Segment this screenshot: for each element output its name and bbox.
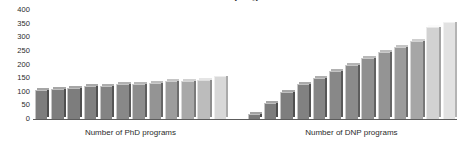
bar-phd: [67, 88, 79, 119]
bar-face: [100, 86, 112, 119]
bar-phd: [132, 84, 144, 119]
plot-area: [33, 11, 457, 120]
bar-side-face: [423, 39, 425, 117]
bar-side-face: [145, 82, 147, 117]
chart-title: Number of programs: [0, 0, 461, 1]
bar-face: [394, 47, 406, 119]
bar-dnp: [264, 103, 276, 119]
bar-dnp: [410, 41, 422, 119]
y-tick-100: 100: [0, 88, 30, 96]
bar-side-face: [47, 88, 49, 117]
bar-dnp: [280, 92, 292, 119]
bar-dnp: [394, 47, 406, 119]
bar-face: [426, 27, 438, 119]
bar-side-face: [358, 63, 360, 118]
bar-side-face: [80, 86, 82, 117]
bar-face: [313, 78, 325, 119]
bar-phd: [197, 80, 209, 119]
y-tick-150: 150: [0, 74, 30, 82]
group-label-phd: Number of PhD programs: [28, 128, 232, 138]
bar-face: [67, 88, 79, 119]
bar-side-face: [210, 78, 212, 117]
bar-side-face: [96, 84, 98, 117]
y-tick-250: 250: [0, 47, 30, 55]
bar-phd: [51, 89, 63, 119]
bar-face: [35, 90, 47, 119]
bar-side-face: [406, 45, 408, 117]
bar-dnp: [297, 84, 309, 119]
bar-face: [149, 83, 161, 119]
bar-side-face: [341, 69, 343, 117]
y-tick-350: 350: [0, 20, 30, 28]
bar-dnp: [313, 78, 325, 119]
bar-face: [378, 52, 390, 119]
bar-side-face: [226, 74, 228, 117]
bar-phd: [149, 83, 161, 119]
bar-side-face: [455, 20, 457, 117]
bar-face: [345, 65, 357, 120]
bar-face: [264, 103, 276, 119]
bar-face: [361, 58, 373, 119]
bar-side-face: [112, 84, 114, 117]
x-axis-baseline: [33, 119, 457, 120]
bar-face: [329, 71, 341, 119]
group-label-dnp: Number of DNP programs: [245, 128, 457, 138]
bar-face: [280, 92, 292, 119]
bar-side-face: [129, 82, 131, 117]
y-axis: 400 350 300 250 200 150 100 50 0: [0, 0, 30, 154]
y-tick-0: 0: [0, 115, 30, 123]
bar-side-face: [276, 101, 278, 117]
bar-side-face: [161, 81, 163, 117]
bar-side-face: [439, 25, 441, 117]
bar-face: [132, 84, 144, 119]
bar-face: [84, 86, 96, 119]
bar-face: [165, 81, 177, 119]
bar-side-face: [374, 56, 376, 117]
bar-phd: [181, 81, 193, 119]
bar-side-face: [64, 87, 66, 117]
bar-face: [410, 41, 422, 119]
bar-chart: Number of programs 400 350 300 250 200 1…: [0, 0, 461, 154]
bar-dnp: [345, 65, 357, 120]
bar-face: [51, 89, 63, 119]
bar-face: [297, 84, 309, 119]
y-tick-50: 50: [0, 101, 30, 109]
bar-phd: [116, 84, 128, 119]
bar-face: [181, 81, 193, 119]
bar-side-face: [293, 90, 295, 117]
y-tick-400: 400: [0, 6, 30, 14]
bar-dnp: [426, 27, 438, 119]
bar-phd: [165, 81, 177, 119]
bar-face: [214, 76, 226, 119]
bar-side-face: [194, 79, 196, 117]
bar-phd: [100, 86, 112, 119]
y-tick-300: 300: [0, 33, 30, 41]
bar-side-face: [390, 50, 392, 117]
bar-face: [116, 84, 128, 119]
y-tick-200: 200: [0, 61, 30, 69]
bar-side-face: [177, 79, 179, 117]
bar-side-face: [309, 82, 311, 117]
bar-dnp: [443, 22, 455, 119]
bar-face: [443, 22, 455, 119]
bar-face: [197, 80, 209, 119]
bar-phd: [214, 76, 226, 119]
bar-phd: [35, 90, 47, 119]
bar-dnp: [329, 71, 341, 119]
bar-dnp: [378, 52, 390, 119]
bar-phd: [84, 86, 96, 119]
bar-dnp: [361, 58, 373, 119]
bars-layer: [33, 11, 457, 120]
bar-side-face: [325, 76, 327, 117]
